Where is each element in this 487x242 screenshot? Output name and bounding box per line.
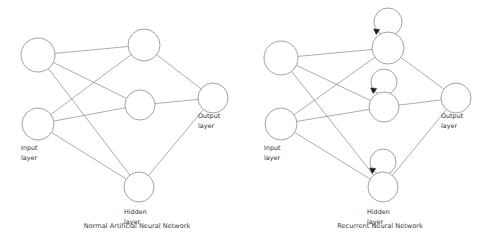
output-layer-label-line2: layer <box>198 122 214 130</box>
edge-input-node-1-to-hidden-node-2 <box>53 62 126 98</box>
edge-hidden-node-2-to-output-node-1 <box>399 100 441 105</box>
edge-input-node-1-to-hidden-node-1 <box>55 47 128 54</box>
edge-input-node-2-to-hidden-node-3 <box>295 132 371 179</box>
input-layer-label-line2: layer <box>264 154 280 162</box>
output-layer-label-line1: Output <box>198 112 221 120</box>
input-layer-label-line1: Input <box>21 144 38 152</box>
input-node-2 <box>265 108 297 140</box>
diagram-caption: Recurrent Neural Network <box>337 222 423 230</box>
hidden-node-3 <box>124 172 154 202</box>
hidden-layer-label-line1: Hidden <box>367 208 390 216</box>
edge-input-node-1-to-hidden-node-1 <box>298 49 372 56</box>
self-loop-hidden-1-arrowhead-icon <box>372 26 380 34</box>
output-node-1 <box>198 83 228 113</box>
edge-input-node-1-to-hidden-node-2 <box>296 65 370 100</box>
edge-input-node-2-to-hidden-node-2 <box>297 109 369 121</box>
edge-input-node-2-to-hidden-node-1 <box>294 57 375 114</box>
output-layer-label-line1: Output <box>441 112 464 120</box>
input-layer-label-line2: layer <box>21 154 37 162</box>
recurrent-nn-canvas: InputlayerHiddenlayerOutputlayerRecurren… <box>243 0 486 242</box>
output-node-1 <box>441 83 471 113</box>
edge-hidden-node-3-to-output-node-1 <box>149 110 204 176</box>
neural-network-figure: InputlayerHiddenlayerOutputlayerNormal A… <box>0 0 487 242</box>
hidden-layer-label-line1: Hidden <box>124 208 147 216</box>
edge-hidden-node-3-to-output-node-1 <box>393 110 447 176</box>
output-layer-label-line2: layer <box>441 122 457 130</box>
diagram-caption: Normal Artificial Neural Network <box>84 222 191 230</box>
input-node-1 <box>21 38 55 72</box>
edge-input-node-2-to-hidden-node-2 <box>54 108 126 121</box>
diagram-normal-ann: InputlayerHiddenlayerOutputlayerNormal A… <box>0 0 243 242</box>
hidden-node-3 <box>368 172 398 202</box>
edge-hidden-node-1-to-output-node-1 <box>401 57 444 89</box>
hidden-node-1 <box>372 32 404 64</box>
hidden-node-2 <box>125 90 155 120</box>
edge-hidden-node-2-to-output-node-1 <box>155 99 198 103</box>
input-node-1 <box>264 41 298 75</box>
input-node-2 <box>22 108 54 140</box>
edge-input-node-2-to-hidden-node-1 <box>51 55 131 115</box>
edge-hidden-node-1-to-output-node-1 <box>157 55 201 89</box>
hidden-node-2 <box>369 92 399 122</box>
input-layer-label-line1: Input <box>264 144 281 152</box>
hidden-node-1 <box>128 29 160 61</box>
diagram-recurrent-nn: InputlayerHiddenlayerOutputlayerRecurren… <box>243 0 486 242</box>
edge-input-node-1-to-hidden-node-3 <box>48 69 130 176</box>
normal-ann-canvas: InputlayerHiddenlayerOutputlayerNormal A… <box>0 0 243 242</box>
